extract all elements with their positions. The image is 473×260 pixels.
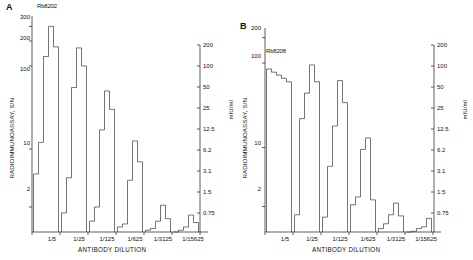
step-trace-group bbox=[34, 26, 59, 232]
panel-a-plot bbox=[0, 0, 237, 260]
step-trace-group bbox=[379, 203, 404, 232]
step-trace-group bbox=[407, 218, 432, 232]
panel-a: A Rb8202 RADIOIMMUNOASSAY, S/N mIU/ml AN… bbox=[0, 0, 237, 260]
step-trace-group bbox=[267, 69, 292, 232]
step-trace-group bbox=[118, 141, 143, 232]
figure-radioimmunoassay-antibody-dilution: A Rb8202 RADIOIMMUNOASSAY, S/N mIU/ml AN… bbox=[0, 0, 473, 260]
step-trace-group bbox=[174, 215, 199, 232]
step-trace-group bbox=[62, 48, 87, 232]
step-trace-group bbox=[351, 138, 376, 232]
step-trace-group bbox=[323, 81, 348, 232]
step-trace-group bbox=[295, 65, 320, 232]
panel-b: B Rb8208 RADIOIMMUNOASSAY, S/N mIU/ml AN… bbox=[236, 0, 473, 260]
step-trace-group bbox=[146, 205, 171, 232]
step-trace-group bbox=[90, 91, 115, 232]
panel-b-plot bbox=[236, 0, 473, 260]
